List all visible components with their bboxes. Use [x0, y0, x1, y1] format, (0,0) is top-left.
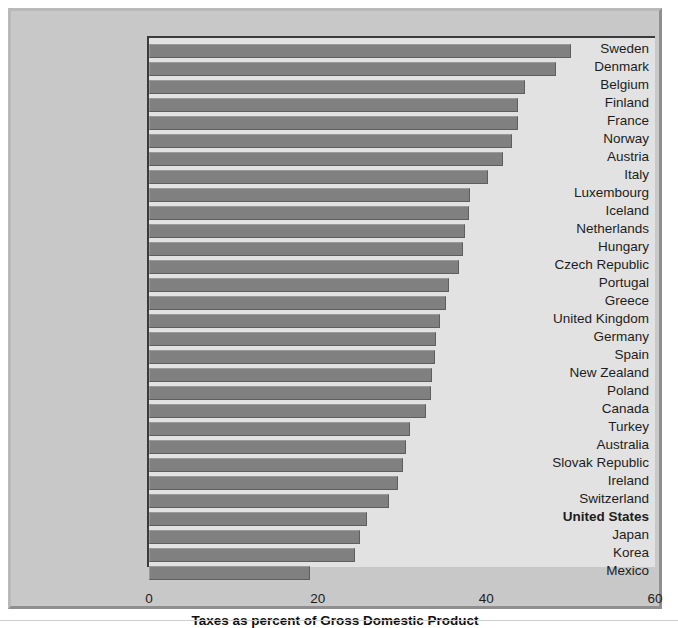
- bar-track: [149, 476, 656, 490]
- bar-row: Portugal: [14, 276, 656, 294]
- bar-track: [149, 224, 656, 238]
- bar-row: Japan: [14, 528, 656, 546]
- bar-track: [149, 530, 656, 544]
- bar-track: [149, 62, 656, 76]
- chart-figure: SwedenDenmarkBelgiumFinlandFranceNorwayA…: [8, 8, 662, 609]
- bar: [149, 62, 556, 76]
- bar-track: [149, 134, 656, 148]
- bar-row: Ireland: [14, 474, 656, 492]
- bar: [149, 314, 440, 328]
- bar: [149, 188, 470, 202]
- bar-track: [149, 350, 656, 364]
- bar: [149, 548, 355, 562]
- bar: [149, 368, 432, 382]
- x-tick-label: 0: [145, 591, 153, 606]
- bar-row: Switzerland: [14, 492, 656, 510]
- bar: [149, 80, 525, 94]
- x-tick-label: 20: [310, 591, 325, 606]
- bar-track: [149, 494, 656, 508]
- bar-track: [149, 278, 656, 292]
- bar-row: Australia: [14, 438, 656, 456]
- bar: [149, 152, 503, 166]
- bar: [149, 530, 360, 544]
- bar-track: [149, 116, 656, 130]
- bar: [149, 512, 367, 526]
- bar: [149, 278, 449, 292]
- bar-track: [149, 422, 656, 436]
- bar-rows: SwedenDenmarkBelgiumFinlandFranceNorwayA…: [14, 42, 656, 582]
- bar-track: [149, 440, 656, 454]
- bar: [149, 116, 518, 130]
- bar: [149, 404, 426, 418]
- bar-row: Denmark: [14, 60, 656, 78]
- bar: [149, 332, 436, 346]
- bar-track: [149, 548, 656, 562]
- bar-track: [149, 314, 656, 328]
- bar-row: Poland: [14, 384, 656, 402]
- bar-row: Korea: [14, 546, 656, 564]
- bar-row: New Zealand: [14, 366, 656, 384]
- bar-track: [149, 368, 656, 382]
- bar-track: [149, 98, 656, 112]
- bar-row: Canada: [14, 402, 656, 420]
- bar: [149, 566, 310, 580]
- bar-row: Slovak Republic: [14, 456, 656, 474]
- bar: [149, 494, 389, 508]
- bar-row: Luxembourg: [14, 186, 656, 204]
- bar-track: [149, 512, 656, 526]
- bar: [149, 440, 406, 454]
- bar-row: Spain: [14, 348, 656, 366]
- bar: [149, 242, 463, 256]
- bar-track: [149, 80, 656, 94]
- bar: [149, 134, 512, 148]
- bar-row: Mexico: [14, 564, 656, 582]
- bar-row: Finland: [14, 96, 656, 114]
- bar-row: France: [14, 114, 656, 132]
- bar-track: [149, 404, 656, 418]
- bar-track: [149, 206, 656, 220]
- bar: [149, 422, 410, 436]
- bar-row: Italy: [14, 168, 656, 186]
- bar-track: [149, 386, 656, 400]
- bar-row: Sweden: [14, 42, 656, 60]
- bar-row: United States: [14, 510, 656, 528]
- bar-row: Czech Republic: [14, 258, 656, 276]
- bar-track: [149, 44, 656, 58]
- bar: [149, 44, 571, 58]
- chart-figure-inner: SwedenDenmarkBelgiumFinlandFranceNorwayA…: [14, 14, 656, 603]
- bar-track: [149, 242, 656, 256]
- x-tick-label: 40: [479, 591, 494, 606]
- bar: [149, 170, 488, 184]
- bar: [149, 224, 465, 238]
- bar: [149, 386, 431, 400]
- bar-row: Greece: [14, 294, 656, 312]
- bar-row: United Kingdom: [14, 312, 656, 330]
- bar-track: [149, 296, 656, 310]
- figure-bottom-rule: [0, 620, 678, 621]
- bar-row: Turkey: [14, 420, 656, 438]
- bar-row: Germany: [14, 330, 656, 348]
- bar: [149, 260, 459, 274]
- bar: [149, 206, 469, 220]
- bar-track: [149, 188, 656, 202]
- bar-row: Iceland: [14, 204, 656, 222]
- bar-track: [149, 458, 656, 472]
- bar-track: [149, 152, 656, 166]
- bar-track: [149, 260, 656, 274]
- bar-track: [149, 170, 656, 184]
- bar-row: Netherlands: [14, 222, 656, 240]
- bar: [149, 458, 403, 472]
- bar-row: Hungary: [14, 240, 656, 258]
- bar-row: Belgium: [14, 78, 656, 96]
- bar: [149, 350, 435, 364]
- bar: [149, 296, 446, 310]
- x-tick-label: 60: [647, 591, 662, 606]
- bar-track: [149, 566, 656, 580]
- bar: [149, 476, 398, 490]
- bar: [149, 98, 518, 112]
- bar-row: Norway: [14, 132, 656, 150]
- bar-row: Austria: [14, 150, 656, 168]
- bar-track: [149, 332, 656, 346]
